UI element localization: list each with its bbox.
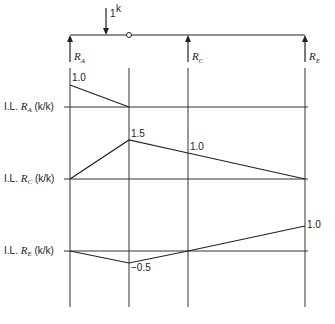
il-rc-value-b: 1.5 — [131, 128, 145, 139]
influence-line-re: −0.5 1.0 I.L. RE (k/k) — [4, 219, 321, 273]
reaction-arrow-a-icon — [67, 35, 73, 62]
load-arrow-icon — [103, 8, 109, 35]
il-re-value-e: 1.0 — [307, 219, 321, 230]
influence-line-diagram: 1 k RA RC RE 1.0 I.L. RA (k/k) — [0, 0, 335, 324]
hinge-icon — [127, 33, 132, 38]
reaction-label-e: RE — [308, 50, 321, 65]
il-ra-label: I.L. RA (k/k) — [4, 100, 54, 114]
reaction-arrow-c-icon — [185, 35, 191, 62]
il-re-value-b: −0.5 — [131, 262, 151, 273]
reaction-label-c: RC — [191, 50, 204, 65]
beam: 1 k RA RC RE — [67, 3, 321, 65]
load-unit: k — [116, 3, 122, 14]
reaction-arrow-e-icon — [302, 35, 308, 62]
il-rc-label: I.L. RC (k/k) — [4, 172, 54, 186]
il-ra-curve — [70, 85, 129, 107]
il-rc-value-c: 1.0 — [190, 141, 204, 152]
il-re-label: I.L. RE (k/k) — [4, 244, 54, 258]
reaction-label-a: RA — [73, 50, 86, 65]
influence-line-rc: 1.5 1.0 I.L. RC (k/k) — [4, 128, 308, 186]
influence-line-ra: 1.0 I.L. RA (k/k) — [4, 72, 308, 114]
guide-lines — [70, 68, 305, 307]
il-ra-value-a: 1.0 — [72, 72, 86, 83]
